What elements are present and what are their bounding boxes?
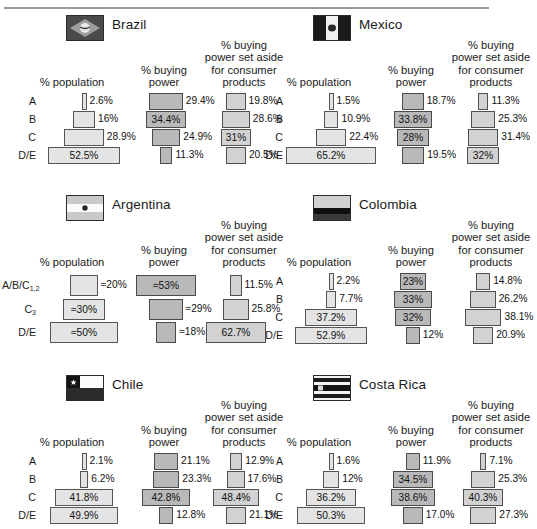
column-captions: % population% buyingpower% buyingpower s… [0,217,247,269]
row-label: D/E [249,509,283,521]
bar-value-label: 52.9% [317,330,346,341]
bar [403,507,422,524]
caption-consumer-products: % buyingpower set asidefor consumerprodu… [445,399,537,449]
bar-value-label: 31.4% [501,131,530,142]
country-panel-mexico: Mexico% population% buyingpower% buyingp… [247,11,493,191]
bar-value-label: 34.5% [399,474,428,485]
bar-value-label: 12.8% [176,509,205,520]
bar-value-label: 49.9% [70,510,99,521]
panel-chart-body: ABCD/E2.6%16%28.9%52.5%29.4%34.4%24.9%11… [0,89,247,163]
bar [73,111,95,128]
bar [326,291,337,308]
caption-line: % population [287,436,352,448]
bar [478,93,489,110]
country-title: Colombia [359,197,417,212]
country-panel-chile: Chile% population% buyingpower% buyingpo… [0,371,247,529]
bar-value-label: 31% [226,132,246,143]
bar-value-label: 36.2% [317,492,346,503]
bar-value-label: 16% [98,113,118,124]
bar-value-label: 33% [403,294,423,305]
header-divider [4,7,489,9]
row-label: A [249,455,283,467]
row-label: A/B/C1,2 [2,279,36,291]
caption-population: % population [10,436,134,449]
bar-value-label: 34.4% [152,114,181,125]
bar-value-label: 33.8% [399,114,428,125]
row-label: A [2,95,36,107]
bar-column-3: 14.8%26.2%38.1%20.9% [451,269,517,343]
bar-value-label: 11.3% [175,149,203,160]
bar [149,299,182,320]
bar-value-label: ≈18% [179,326,205,337]
row-label: D/E [2,509,36,521]
bar: 41.8% [55,489,112,506]
bar-value-label: 1.6% [337,455,360,466]
bar [70,275,97,296]
row-label: A [249,95,283,107]
bar [223,299,248,320]
bar: 34.4% [146,111,185,128]
caption-line: for consumer [458,244,523,256]
caption-line: % population [287,256,352,268]
caption-population: % population [257,76,381,89]
bar [468,129,498,146]
bar [316,129,347,146]
caption-line: products [470,76,513,88]
caption-buying-power: % buyingpower [375,424,447,449]
bar: 33.8% [394,111,433,128]
caption-line: % population [40,436,105,448]
caption-line: % population [40,76,105,88]
bar: 42.8% [142,489,191,506]
bar: 37.2% [305,309,356,326]
bar-value-label: 2.2% [337,275,360,286]
panel-chart-body: ABCD/E1.6%12%36.2%50.3%11.9%34.5%38.6%17… [247,449,493,523]
caption-consumer-products: % buyingpower set asidefor consumerprodu… [445,39,537,89]
caption-line: power [149,76,179,88]
bar-value-label: 42.8% [152,492,181,503]
caption-population: % population [10,256,134,269]
bar-column-3: 7.1%25.3%40.3%27.3% [451,449,517,523]
bar [402,93,423,110]
caption-line: % buying [388,64,434,76]
bar [471,111,496,128]
bar [64,129,104,146]
bar [471,471,496,488]
caption-line: power [396,256,426,268]
bar [324,111,339,128]
caption-line: % buying [468,39,514,51]
row-label: C [2,491,36,503]
bar: 33% [394,291,432,308]
bar [153,471,180,488]
bar-column-1: 2.2%7.7%37.2%52.9% [283,269,381,343]
bar [473,327,493,344]
bar [227,471,244,488]
bar-value-label: 32% [403,312,423,323]
bar-column-2: ≈53%≈29%≈18% [134,269,200,343]
row-label: D/E [249,329,283,341]
caption-line: % buying [141,244,187,256]
bar-column-3: 11.3%25.3%31.4%32% [451,89,517,163]
caption-line: power [149,256,179,268]
row-label: B [249,473,283,485]
caption-line: for consumer [458,424,523,436]
row-label: D/E [249,149,283,161]
caption-population: % population [10,76,134,89]
bar [402,147,424,164]
caption-buying-power: % buyingpower [375,64,447,89]
bar [476,273,490,290]
caption-line: % buying [468,399,514,411]
bar: ≈50% [50,322,119,343]
caption-line: products [470,436,513,448]
caption-line: power set aside [452,51,530,63]
row-labels: ABCD/E [2,89,36,163]
bar: 52.5% [48,147,120,164]
bar [470,291,495,308]
caption-buying-power: % buyingpower [128,424,200,449]
country-panel-brazil: Brazil% population% buyingpower% buyingp… [0,11,247,191]
bar: 38.6% [391,489,435,506]
bar: 23% [400,273,426,290]
caption-line: power set aside [452,411,530,423]
bar-column-2: 23%33%32%12% [381,269,447,343]
caption-buying-power: % buyingpower [128,244,200,269]
bar-column-1: ≈20%≈30%≈50% [36,269,134,343]
